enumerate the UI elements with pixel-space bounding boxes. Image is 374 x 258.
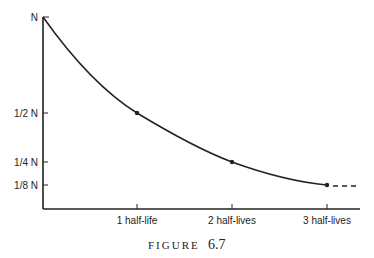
- y-label-n: N: [31, 12, 38, 23]
- decay-curve: [43, 17, 327, 185]
- y-label-eighth: 1/8 N: [14, 180, 38, 191]
- figure-caption-number: 6.7: [208, 237, 226, 252]
- x-label-2: 2 half-lives: [208, 215, 256, 226]
- y-label-quarter: 1/4 N: [14, 157, 38, 168]
- x-label-3: 3 half-lives: [303, 215, 351, 226]
- figure-caption-word: FIGURE: [148, 239, 200, 251]
- data-point-2: [230, 160, 234, 164]
- x-label-1: 1 half-life: [117, 215, 158, 226]
- y-label-half: 1/2 N: [14, 108, 38, 119]
- decay-chart: N 1/2 N 1/4 N 1/8 N 1 half-life 2 half-l…: [0, 0, 374, 258]
- data-point-3: [325, 183, 329, 187]
- data-point-1: [135, 111, 139, 115]
